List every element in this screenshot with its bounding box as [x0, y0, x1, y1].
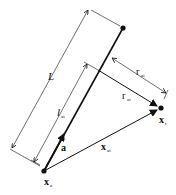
svg-text:a: a: [61, 142, 66, 153]
label-L: L: [47, 70, 54, 82]
svg-text:ai: ai: [127, 97, 131, 102]
svg-text:ai: ai: [107, 148, 111, 153]
svg-text:r: r: [122, 90, 126, 101]
point-x-t: [158, 105, 163, 110]
label-x-t: x t: [159, 114, 167, 126]
r-ai-extension-right: [164, 90, 168, 99]
L-extension-top: [91, 10, 120, 26]
label-a-hat: ^ a: [61, 135, 66, 153]
point-top-end: [120, 25, 125, 30]
svg-text:t: t: [165, 121, 167, 126]
L-extension-bottom: [10, 149, 40, 166]
label-r-ai-vector: r ai: [122, 90, 131, 102]
label-r-ai-dimension: r ai: [136, 66, 145, 78]
svg-text:x: x: [44, 176, 49, 187]
svg-text:a: a: [50, 183, 53, 188]
label-x-ai: x ai: [101, 141, 111, 153]
vector-diagram: L l ai ^ a r ai r ai x ai x t x a: [0, 0, 176, 195]
svg-text:x: x: [159, 114, 164, 125]
label-x-a: x a: [44, 176, 53, 188]
svg-text:x: x: [101, 141, 106, 152]
point-x-a: [41, 168, 46, 173]
svg-text:r: r: [136, 66, 140, 77]
svg-text:ai: ai: [61, 114, 65, 119]
l-ai-extension-bottom: [31, 160, 40, 165]
svg-text:ai: ai: [141, 73, 145, 78]
svg-text:l: l: [57, 106, 60, 118]
